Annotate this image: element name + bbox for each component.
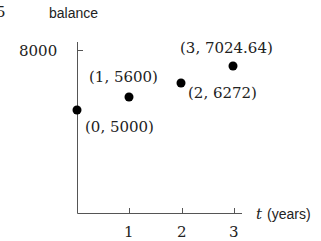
point-label-3: (3, 7024.64) bbox=[180, 39, 273, 57]
x-tick-label-1: 1 bbox=[124, 223, 134, 241]
y-axis-label: balance bbox=[49, 5, 98, 21]
x-tick-label-2: 2 bbox=[177, 223, 187, 241]
point-label-0: (0, 5000) bbox=[85, 118, 154, 136]
balance-chart: 5 balance 8000 1 2 3 t (years) (0, 5000)… bbox=[0, 0, 321, 241]
data-point-1 bbox=[125, 93, 134, 102]
corner-mark: 5 bbox=[0, 3, 6, 21]
point-label-1: (1, 5600) bbox=[89, 68, 158, 86]
x-axis-label-unit: (years) bbox=[267, 206, 311, 222]
x-tick-label-3: 3 bbox=[229, 223, 239, 241]
y-tick-label-8000: 8000 bbox=[19, 42, 57, 60]
point-label-2: (2, 6272) bbox=[188, 84, 257, 102]
data-point-0 bbox=[73, 106, 82, 115]
data-point-2 bbox=[177, 79, 186, 88]
x-axis-label-var: t bbox=[256, 205, 263, 223]
data-point-3 bbox=[229, 62, 238, 71]
